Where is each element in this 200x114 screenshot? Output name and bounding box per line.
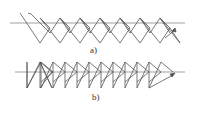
figure-canvas	[0, 0, 200, 114]
panel-b-triangle-series	[27, 62, 173, 88]
panel-b-diagram	[15, 62, 185, 88]
panel-a-diagram	[10, 13, 185, 43]
panel-a-hooks	[28, 13, 30, 14]
arrow-icon	[172, 28, 176, 32]
panel-a-label: a)	[90, 45, 97, 55]
panel-b-label: b)	[92, 92, 100, 102]
panel-b-triangles	[27, 62, 52, 88]
